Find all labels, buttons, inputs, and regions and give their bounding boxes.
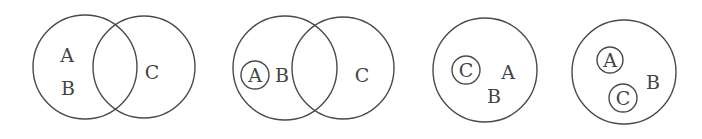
label-a: A [500, 61, 515, 83]
venn-diagram-2: A B C [233, 16, 394, 120]
label-b: B [646, 71, 660, 93]
label-c: C [145, 61, 160, 83]
set-circle-ab [433, 18, 537, 122]
label-c: C [355, 64, 370, 86]
label-b: B [275, 64, 289, 86]
label-a: A [602, 49, 617, 71]
label-b: B [61, 77, 75, 99]
venn-diagram-1: A B C [33, 15, 195, 119]
set-circle-ab [33, 15, 137, 119]
label-a: A [247, 64, 262, 86]
venn-diagrams-canvas: A B C A B C C A B A C B [0, 0, 702, 139]
label-c: C [616, 87, 631, 109]
venn-diagram-3: C A B [433, 18, 537, 122]
set-circle-c [292, 17, 394, 119]
label-b: B [487, 85, 501, 107]
label-c: C [459, 59, 474, 81]
venn-diagram-4: A C B [572, 20, 676, 124]
label-a: A [59, 44, 74, 66]
